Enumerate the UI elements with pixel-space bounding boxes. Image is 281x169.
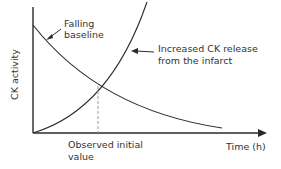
increased-pointer-line <box>136 51 154 52</box>
x-axis-label: Time (h) <box>226 141 266 152</box>
falling-baseline-curve <box>33 25 222 128</box>
falling-label-line2: baseline <box>64 29 104 40</box>
y-axis-label: CK activity <box>9 49 20 100</box>
increased-label-line1: Increased CK release <box>158 43 258 54</box>
increased-pointer-arrow-icon <box>131 48 138 54</box>
falling-pointer-arrow-icon <box>46 34 53 40</box>
observed-label-line1: Observed initial <box>68 139 143 150</box>
falling-label-line1: Falling <box>64 18 94 29</box>
observed-label-line2: value <box>68 151 94 162</box>
increased-label-line2: from the infarct <box>158 55 232 66</box>
x-axis-arrow-icon <box>258 129 267 137</box>
ck-activity-diagram: CK activity Falling baseline Increased C… <box>0 0 281 169</box>
